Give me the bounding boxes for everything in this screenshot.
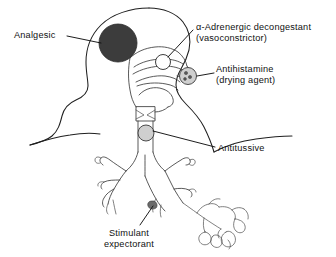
right-inner-twig-2 [160, 205, 161, 217]
carina [126, 152, 138, 171]
respiratory-drug-sites-figure: Analgesic α-Adrenergic decongestant (vas… [0, 0, 336, 257]
bronchial-tree-group [95, 152, 244, 232]
vocal-cords [136, 110, 155, 119]
head-outline [30, 8, 149, 145]
label-antitussive: Antitussive [218, 143, 264, 154]
gland-dot-1 [184, 71, 187, 74]
label-expectorant-line1: Stimulant [109, 228, 149, 238]
left-lower-twig-2 [107, 204, 109, 214]
label-antihistamine-line2: (drying agent) [216, 75, 275, 86]
leader-analgesic [67, 36, 101, 43]
label-antihistamine-line1: Antihistamine [216, 64, 274, 74]
right-distal-branch-a [197, 204, 219, 213]
alveolar-cluster-group [199, 209, 248, 249]
right-main-descending [165, 171, 183, 203]
cough-receptor-site-marker [138, 125, 154, 141]
label-adrenergic-decongestant: α-Adrenergic decongestant (vasoconstrict… [196, 22, 311, 43]
drug-site-markers [99, 24, 197, 209]
right-distal-branch-d [232, 208, 244, 210]
soft-palate [137, 83, 178, 90]
leader-antitussive [153, 131, 215, 147]
alveolus-2 [211, 235, 222, 247]
label-decongestant-line2: (vasoconstrictor) [196, 33, 311, 44]
left-lower-twig-3 [113, 200, 116, 214]
right-distal-branch-c [219, 207, 235, 219]
oropharynx-wall [129, 58, 137, 107]
pharynx-anterior-wall [155, 107, 168, 112]
gland-dot-3 [184, 78, 187, 81]
alveolus-4 [221, 231, 235, 247]
label-antihistamine: Antihistamine (drying agent) [216, 64, 275, 85]
head-pain-site-marker [99, 24, 137, 62]
label-expectorant-line2: expectorant [104, 239, 154, 250]
right-distal-branch-e [203, 218, 205, 232]
right-upper-lobe-bronchus [165, 158, 190, 171]
leader-decongestant [168, 30, 193, 57]
gland-dot-2 [188, 75, 191, 78]
alveolus-6 [244, 209, 248, 219]
carina-right [153, 152, 165, 171]
alveolus-1 [199, 232, 211, 245]
tongue [139, 88, 173, 107]
inferior-turbinate [136, 76, 180, 82]
right-distal-branch-b [209, 199, 220, 204]
label-antitussive-text: Antitussive [218, 143, 264, 153]
label-analgesic-text: Analgesic [14, 30, 56, 40]
left-main-descending [108, 171, 126, 204]
leader-expectorant [140, 206, 153, 225]
alveolus-5 [234, 219, 246, 233]
bronchiole-mucus-site-marker [148, 201, 157, 209]
label-stimulant-expectorant: Stimulant expectorant [104, 228, 154, 250]
alveolus-7 [228, 240, 230, 249]
label-analgesic: Analgesic [14, 30, 56, 41]
label-decongestant-line1: α-Adrenergic decongestant [196, 22, 311, 32]
larynx-box [136, 107, 155, 121]
left-upper-lobe-bronchus [100, 157, 126, 171]
mucous-gland-site-marker [180, 68, 197, 85]
leader-antihistamine [197, 73, 214, 76]
shoulder-left-outline [30, 133, 100, 145]
